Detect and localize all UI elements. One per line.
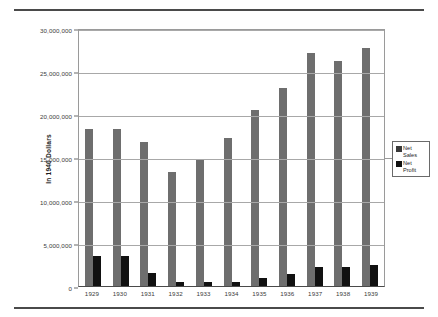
bar-group: [134, 30, 162, 286]
y-axis-tick-label: 5,000,000: [44, 242, 79, 249]
bar-net-sales-1937: [307, 53, 315, 286]
y-axis-tick-label: 20,000,000: [40, 113, 79, 120]
bar-group: [79, 30, 107, 286]
y-axis-tick-label: 25,000,000: [40, 70, 79, 77]
bar-net-sales-1938: [334, 61, 342, 286]
legend-label-net-profit: Net Profit: [403, 160, 416, 173]
x-axis-tick-label: 1937: [301, 290, 329, 297]
bar-net-profit-1934: [232, 282, 240, 286]
bar-net-sales-1936: [279, 88, 287, 286]
gridline: [79, 30, 384, 31]
x-axis-tick-label: 1938: [329, 290, 357, 297]
x-axis-tick-label: 1931: [134, 290, 162, 297]
chart-legend: Net Sales Net Profit: [392, 141, 430, 177]
legend-swatch-net-sales-icon: [396, 146, 402, 152]
x-axis-tick-label: 1929: [78, 290, 106, 297]
legend-label-net-sales: Net Sales: [403, 145, 417, 158]
bar-net-profit-1929: [93, 256, 101, 286]
bar-group: [162, 30, 190, 286]
gridline: [79, 202, 384, 203]
gridline: [79, 245, 384, 246]
bar-net-sales-1934: [224, 138, 232, 286]
y-axis-tick-label: 10,000,000: [40, 199, 79, 206]
bars-container: [79, 30, 384, 286]
legend-swatch-net-profit-icon: [396, 161, 402, 167]
y-axis-tick-label: 15,000,000: [40, 156, 79, 163]
chart-page: In 1940 Dollars 30,000,00025,000,00020,0…: [0, 0, 438, 317]
bar-net-sales-1933: [196, 159, 204, 286]
gridline: [79, 159, 384, 160]
top-divider-rule: [14, 9, 424, 11]
x-axis-tick-label: 1936: [273, 290, 301, 297]
bar-group: [218, 30, 246, 286]
bar-group: [273, 30, 301, 286]
bar-net-profit-1930: [121, 256, 129, 286]
bar-net-sales-1935: [251, 110, 259, 286]
bar-group: [190, 30, 218, 286]
bar-group: [245, 30, 273, 286]
bar-net-profit-1939: [370, 265, 378, 287]
gridline: [79, 116, 384, 117]
legend-connector: [385, 158, 392, 159]
plot-area: 30,000,00025,000,00020,000,00015,000,000…: [78, 29, 385, 287]
bar-net-sales-1931: [140, 142, 148, 286]
y-axis-tick-label: 30,000,000: [40, 27, 79, 34]
bar-group: [107, 30, 135, 286]
bar-net-profit-1937: [315, 267, 323, 286]
bar-net-sales-1929: [85, 129, 93, 286]
legend-item-net-sales: Net Sales: [396, 145, 427, 158]
bar-net-profit-1933: [204, 282, 212, 286]
x-axis-tick-label: 1930: [106, 290, 134, 297]
x-axis-tick-label: 1933: [190, 290, 218, 297]
x-axis-tick-label: 1932: [162, 290, 190, 297]
bar-net-sales-1930: [113, 129, 121, 286]
x-axis-tick-label: 1939: [357, 290, 385, 297]
legend-item-net-profit: Net Profit: [396, 160, 427, 173]
x-axis-tick-label: 1934: [218, 290, 246, 297]
bar-group: [329, 30, 357, 286]
x-axis-tick-label: 1935: [245, 290, 273, 297]
bar-net-profit-1932: [176, 282, 184, 286]
bar-net-profit-1938: [342, 267, 350, 286]
bottom-divider-rule: [14, 307, 424, 309]
bar-group: [356, 30, 384, 286]
x-axis-tick-labels: 1929193019311932193319341935193619371938…: [78, 290, 385, 297]
bar-group: [301, 30, 329, 286]
bar-net-profit-1935: [259, 278, 267, 286]
bar-net-profit-1936: [287, 274, 295, 286]
bar-net-sales-1939: [362, 48, 370, 286]
bar-net-sales-1932: [168, 172, 176, 286]
gridline: [79, 73, 384, 74]
bar-net-profit-1931: [148, 273, 156, 286]
